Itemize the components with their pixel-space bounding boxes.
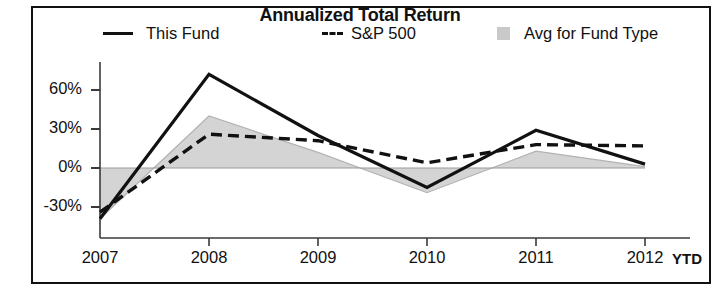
x-tick-label: 2007 [82,248,119,267]
x-axis-note-ytd: YTD [672,250,702,267]
y-tick-label: 0% [20,157,82,176]
x-tick-label: 2012 [627,248,664,267]
y-tick-label: -30% [20,196,82,215]
x-tick-label: 2008 [191,248,228,267]
y-tick-label: 30% [20,118,82,137]
y-tick-label: 60% [20,79,82,98]
x-tick-label: 2011 [518,248,553,267]
avg-for-fund-type-area [100,116,645,219]
x-tick-label: 2009 [300,248,337,267]
x-tick-label: 2010 [409,248,446,267]
